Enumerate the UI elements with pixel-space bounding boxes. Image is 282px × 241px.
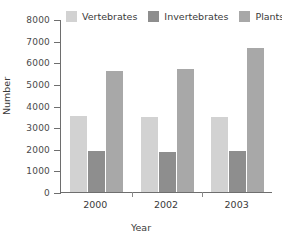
y-tick-label-5000: 5000	[26, 80, 50, 90]
x-separator-1	[132, 192, 133, 197]
y-tick-7000	[54, 42, 61, 43]
bar-plants-2002	[177, 69, 194, 192]
x-tick-label-2003: 2003	[225, 199, 249, 210]
y-tick-label-1000: 1000	[26, 166, 50, 176]
bar-vertebrates-2002	[141, 117, 158, 192]
y-tick-6000	[54, 63, 61, 64]
plot-area: 800070006000500040003000200010000	[60, 20, 272, 193]
y-tick-label-4000: 4000	[26, 102, 50, 112]
y-tick-4000	[54, 107, 61, 108]
y-tick-3000	[54, 128, 61, 129]
y-tick-label-6000: 6000	[26, 58, 50, 68]
bar-invertebrates-2002	[159, 152, 176, 192]
y-tick-label-2000: 2000	[26, 145, 50, 155]
x-tick-label-2002: 2002	[154, 199, 178, 210]
y-tick-5000	[54, 85, 61, 86]
y-tick-label-3000: 3000	[26, 123, 50, 133]
y-tick-8000	[54, 20, 61, 21]
bar-plants-2000	[106, 71, 123, 192]
y-tick-2000	[54, 150, 61, 151]
bar-chart: Vertebrates Invertebrates Plants Number …	[0, 0, 282, 241]
y-axis-title: Number	[1, 77, 12, 115]
bar-vertebrates-2003	[211, 117, 228, 192]
bar-invertebrates-2000	[88, 151, 105, 192]
y-tick-label-7000: 7000	[26, 37, 50, 47]
x-axis-title: Year	[0, 222, 282, 233]
y-tick-0	[54, 193, 61, 194]
x-separator-2	[202, 192, 203, 197]
y-tick-label-0: 0	[44, 188, 50, 198]
x-tick-label-2000: 2000	[83, 199, 107, 210]
bar-vertebrates-2000	[70, 116, 87, 192]
bar-invertebrates-2003	[229, 151, 246, 192]
bar-plants-2003	[247, 48, 264, 192]
y-tick-label-8000: 8000	[26, 15, 50, 25]
y-tick-1000	[54, 171, 61, 172]
